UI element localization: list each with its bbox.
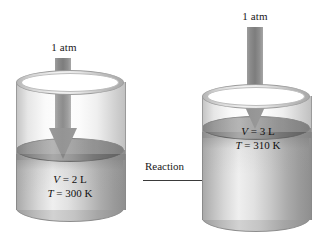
- right-volume-symbol: V: [241, 125, 248, 137]
- left-temperature-symbol: T: [47, 187, 53, 199]
- right-temperature-line: T = 310 K: [208, 138, 308, 152]
- right-cylinder: [202, 84, 310, 232]
- right-volume-line: V = 3 L: [208, 124, 308, 138]
- reaction-label: Reaction: [145, 160, 184, 172]
- right-volume-value: = 3 L: [251, 125, 275, 137]
- gas-law-reaction-diagram: 1 atm V: [0, 0, 325, 238]
- left-cylinder-group: 1 atm V: [0, 0, 150, 238]
- left-temperature-line: T = 300 K: [20, 186, 120, 200]
- right-state-text: V = 3 L T = 310 K: [208, 124, 308, 152]
- left-volume-line: V = 2 L: [20, 172, 120, 186]
- left-temperature-value: = 300 K: [56, 187, 92, 199]
- left-pressure-label: 1 atm: [40, 41, 88, 53]
- right-cylinder-opening: [207, 87, 305, 106]
- left-cylinder-opening: [21, 73, 119, 92]
- left-state-text: V = 2 L T = 300 K: [20, 172, 120, 200]
- left-volume-symbol: V: [53, 173, 60, 185]
- right-temperature-value: = 310 K: [244, 139, 280, 151]
- left-volume-value: = 2 L: [63, 173, 87, 185]
- right-temperature-symbol: T: [235, 139, 241, 151]
- right-pressure-label: 1 atm: [231, 10, 279, 22]
- right-cylinder-group: 1 atm V: [190, 0, 325, 238]
